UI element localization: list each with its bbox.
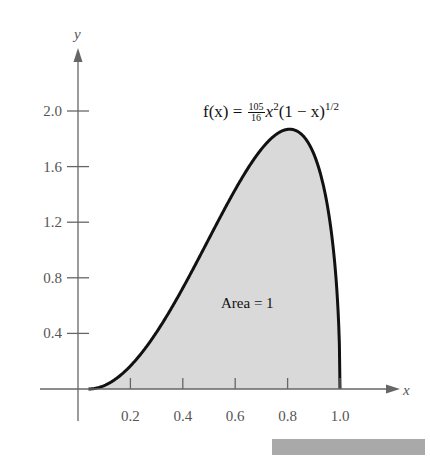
y-axis-label: y [72, 26, 81, 42]
y-tick-label: 0.4 [43, 325, 62, 341]
y-tick-label: 1.6 [43, 159, 62, 175]
formula-factor: (1 − x) [279, 102, 325, 121]
gray-bar [272, 439, 425, 455]
chart-canvas: x y 0.20.40.60.81.0 0.40.81.21.62.0 Area… [0, 0, 430, 473]
formula-prefix: f(x) = [203, 102, 247, 121]
y-axis-arrow-icon [74, 48, 83, 62]
formula-coefficient: 10516 [248, 102, 265, 123]
formula-exp2: 1/2 [325, 100, 339, 112]
y-tick-label: 0.8 [43, 270, 62, 286]
x-axis-arrow-icon [386, 385, 400, 394]
shaded-area [88, 129, 340, 389]
x-tick-label: 0.6 [226, 408, 245, 424]
y-tick-label: 2.0 [43, 103, 62, 119]
x-tick-label: 0.4 [173, 408, 192, 424]
coef-denominator: 16 [248, 113, 265, 123]
area-annotation: Area = 1 [221, 295, 274, 311]
formula-x: x [266, 102, 274, 121]
x-tick-label: 0.2 [121, 408, 140, 424]
function-formula: f(x) = 10516x2(1 − x)1/2 [203, 100, 339, 123]
x-axis-label: x [402, 382, 410, 398]
y-ticks: 0.40.81.21.62.0 [43, 103, 89, 341]
y-tick-label: 1.2 [43, 214, 62, 230]
x-tick-label: 0.8 [278, 408, 297, 424]
x-tick-label: 1.0 [331, 408, 350, 424]
